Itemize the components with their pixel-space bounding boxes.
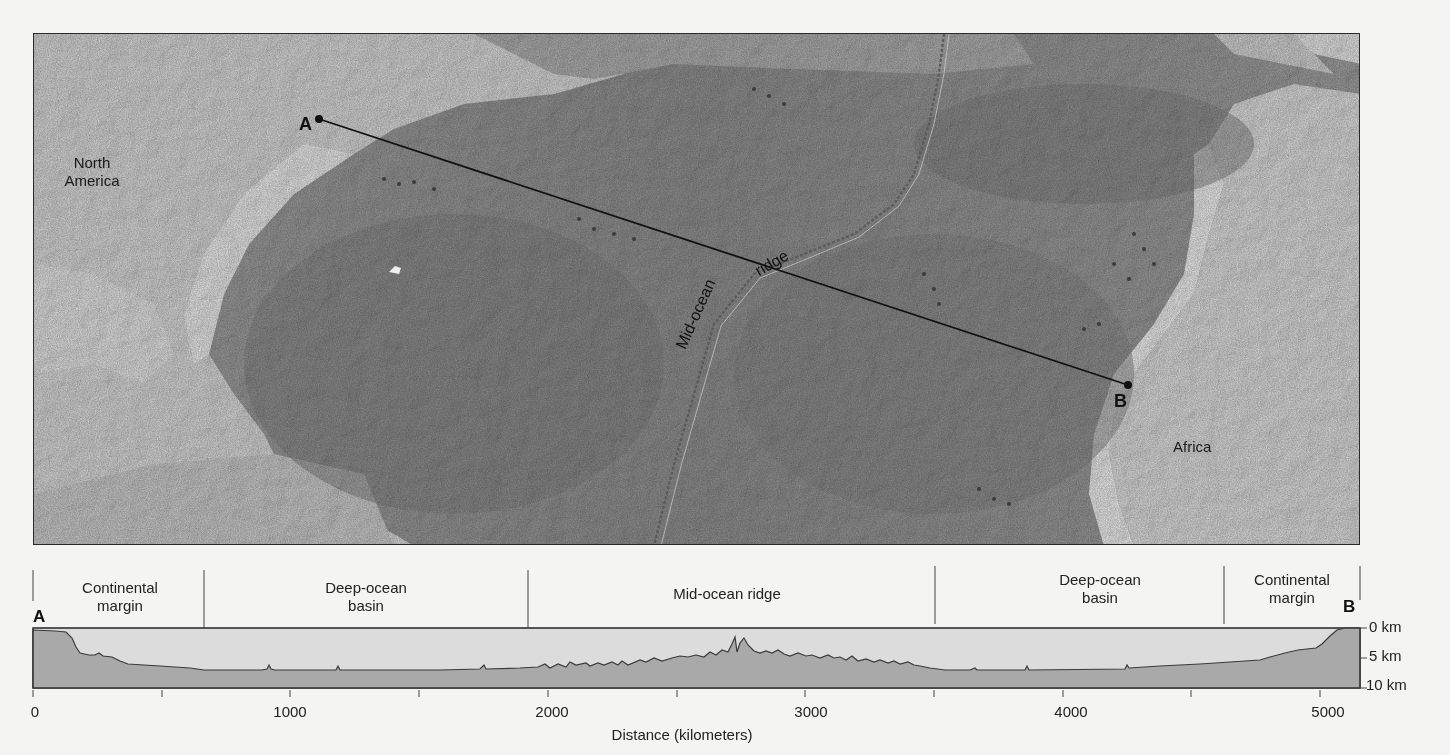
x-tick-label-2000: 2000 [535,703,568,720]
point-a-marker [315,115,323,123]
x-axis-title: Distance (kilometers) [612,726,753,743]
section-label-line1: Continental [82,579,158,597]
x-tick-label-5000: 5000 [1311,703,1344,720]
point-a-label: A [299,114,312,135]
north-america-label-line2: America [63,172,121,190]
section-label-continental-margin-b: Continental margin [1254,571,1330,607]
africa-label: Africa [1173,438,1211,456]
depth-label-0: 0 km [1369,618,1402,635]
section-label-line1: Mid-ocean ridge [673,585,781,603]
x-tick-label-4000: 4000 [1054,703,1087,720]
north-america-label-line1: North [63,154,121,172]
depth-profile-chart: Continental margin Deep-ocean basin Mid-… [0,555,1450,755]
section-label-line2: basin [1059,589,1141,607]
depth-label-5: 5 km [1369,647,1402,664]
x-axis-ticks [33,690,1320,697]
point-b-marker [1124,381,1132,389]
section-label-line2: margin [1254,589,1330,607]
section-label-mid-ocean-ridge: Mid-ocean ridge [673,585,781,603]
section-label-line2: basin [325,597,407,615]
x-tick-label-0: 0 [31,703,39,720]
section-label-line1: Deep-ocean [1059,571,1141,589]
north-america-label: North America [63,154,121,190]
x-tick-label-3000: 3000 [794,703,827,720]
section-label-line1: Continental [1254,571,1330,589]
profile-point-a-label: A [33,607,45,627]
section-label-continental-margin-a: Continental margin [82,579,158,615]
x-tick-label-1000: 1000 [273,703,306,720]
profile-point-b-label: B [1343,597,1355,617]
section-label-line2: margin [82,597,158,615]
point-b-label: B [1114,391,1127,412]
section-label-deep-ocean-basin-a: Deep-ocean basin [325,579,407,615]
depth-label-10: 10 km [1366,676,1407,693]
section-label-deep-ocean-basin-b: Deep-ocean basin [1059,571,1141,607]
section-label-line1: Deep-ocean [325,579,407,597]
shaded-relief-map: North America Africa A B Mid-ocean ridge [33,33,1360,545]
